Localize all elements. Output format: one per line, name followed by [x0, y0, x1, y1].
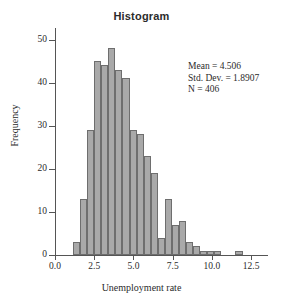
histogram-figure: Histogram 01020304050 0.02.55.07.510.012…	[0, 0, 283, 304]
histogram-bar	[80, 199, 87, 255]
histogram-bar	[144, 156, 151, 255]
histogram-bar	[115, 70, 122, 255]
histogram-bar	[94, 61, 101, 255]
x-axis-tick	[133, 255, 134, 260]
histogram-bar	[172, 225, 179, 255]
histogram-bar	[214, 251, 221, 255]
y-axis-tick-label: 40	[26, 77, 47, 87]
histogram-bar	[108, 48, 115, 255]
x-axis-tick-label: 2.5	[77, 261, 111, 271]
histogram-bar	[101, 65, 108, 255]
x-axis-tick-label: 7.5	[156, 261, 190, 271]
x-axis-tick-label: 10.0	[195, 261, 229, 271]
y-axis-tick	[49, 40, 55, 41]
histogram-bar	[193, 246, 200, 255]
y-axis-tick-label: 50	[26, 34, 47, 44]
y-axis-tick	[49, 212, 55, 213]
histogram-bar	[130, 130, 137, 255]
y-axis-tick	[49, 83, 55, 84]
x-axis-tick-label: 0.0	[38, 261, 72, 271]
y-axis-tick-label: 30	[26, 120, 47, 130]
histogram-bar	[137, 134, 144, 255]
x-axis-tick	[173, 255, 174, 260]
statistics-annotation: Mean = 4.506 Std. Dev. = 1.8907 N = 406	[188, 61, 259, 96]
x-axis-tick-label: 5.0	[116, 261, 150, 271]
mean-label: Mean = 4.506	[188, 61, 259, 73]
histogram-bar	[73, 242, 80, 255]
histogram-bar	[235, 251, 242, 255]
x-axis-tick	[94, 255, 95, 260]
histogram-bar	[207, 251, 214, 255]
chart-title: Histogram	[0, 10, 283, 22]
y-axis-tick-label: 10	[26, 206, 47, 216]
y-axis-tick-label: 20	[26, 163, 47, 173]
histogram-bar	[122, 78, 129, 255]
histogram-bar	[186, 242, 193, 255]
histogram-bar	[165, 199, 172, 255]
y-axis-tick-label: 0	[26, 249, 47, 259]
y-axis-tick	[49, 169, 55, 170]
y-axis-tick	[49, 126, 55, 127]
y-axis-title: Frequency	[9, 86, 20, 166]
histogram-bar	[200, 251, 207, 255]
n-label: N = 406	[188, 84, 259, 96]
x-axis-tick	[251, 255, 252, 260]
histogram-bar	[158, 238, 165, 255]
histogram-bar	[151, 173, 158, 255]
x-axis-tick	[55, 255, 56, 260]
x-axis-line	[52, 255, 268, 256]
stddev-label: Std. Dev. = 1.8907	[188, 73, 259, 85]
histogram-bar	[179, 221, 186, 255]
histogram-bar	[87, 130, 94, 255]
x-axis-title: Unemployment rate	[0, 282, 283, 293]
x-axis-tick	[212, 255, 213, 260]
x-axis-tick-label: 12.5	[234, 261, 268, 271]
